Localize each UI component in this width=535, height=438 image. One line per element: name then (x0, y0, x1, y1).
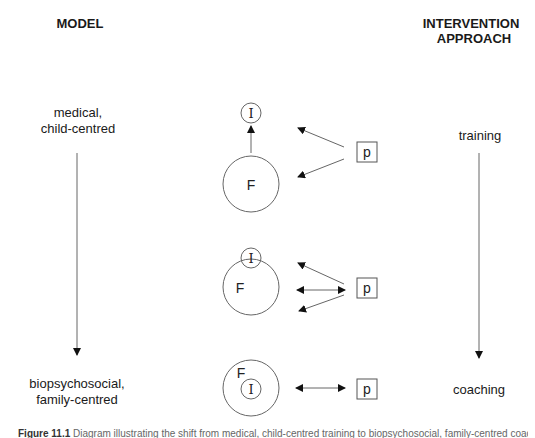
row-coaching (223, 360, 377, 416)
intervention-label-row3: I (248, 382, 253, 397)
p-to-intervention-arrow (298, 263, 344, 284)
row-intermediate (223, 248, 377, 315)
professional-label-row3: p (363, 381, 371, 397)
family-label-row3: F (237, 365, 246, 381)
family-label-row2: F (236, 280, 245, 296)
professional-label-row1: p (363, 144, 371, 160)
figure-caption-text: Diagram illustrating the shift from medi… (73, 428, 528, 438)
figure-caption-label: Figure 11.1 (18, 428, 70, 438)
intervention-label-row2: I (248, 251, 253, 266)
intervention-label-row1: I (248, 106, 253, 121)
p-to-intervention-arrow (298, 128, 344, 147)
p-to-family-arrow (298, 159, 344, 177)
p-to-family-lower-arrow (299, 295, 344, 311)
professional-label-row2: p (363, 280, 371, 296)
family-label-row1: F (247, 177, 256, 193)
figure-caption: Figure 11.1 Diagram illustrating the shi… (18, 428, 528, 438)
row-training (223, 103, 377, 212)
